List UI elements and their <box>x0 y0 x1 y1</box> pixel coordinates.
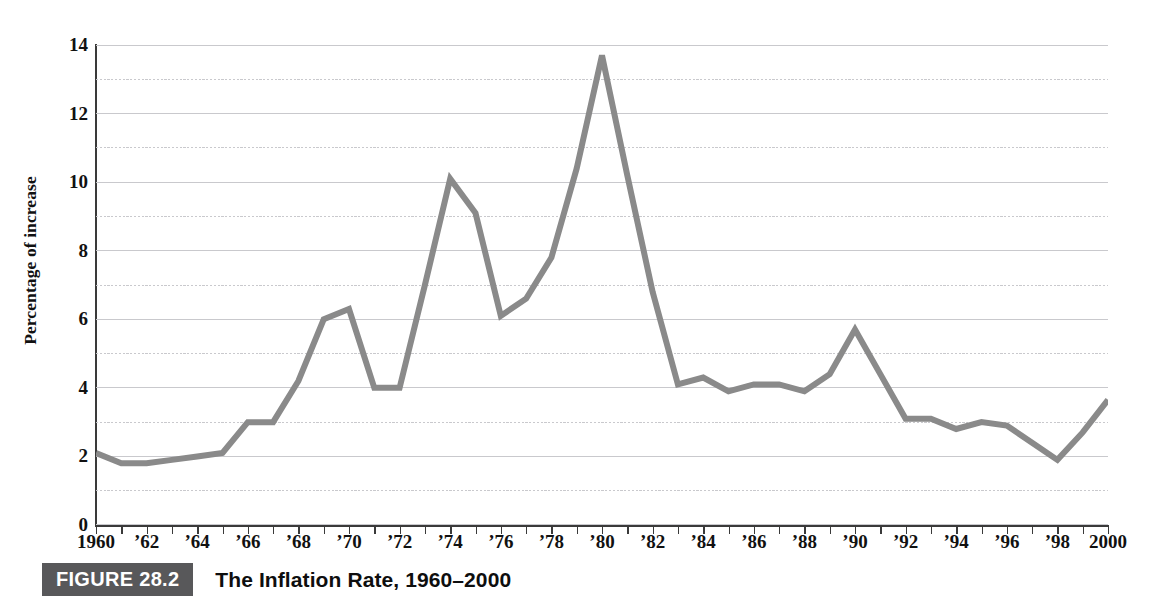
figure-title: The Inflation Rate, 1960–2000 <box>215 563 511 596</box>
y-tick-label: 10 <box>48 171 88 193</box>
y-tick-label: 4 <box>48 377 88 399</box>
y-tick-label: 6 <box>48 308 88 330</box>
y-axis-title: Percentage of increase <box>20 51 41 471</box>
figure-page: Percentage of increase 02468101214 1960’… <box>0 0 1173 599</box>
inflation-rate-line <box>96 45 1108 525</box>
y-tick-label: 2 <box>48 445 88 467</box>
figure-caption: FIGURE 28.2 The Inflation Rate, 1960–200… <box>0 563 1173 599</box>
plot-area <box>96 45 1108 525</box>
x-tick-label: 2000 <box>1073 531 1143 553</box>
y-tick-label: 14 <box>48 34 88 56</box>
y-tick-label: 8 <box>48 240 88 262</box>
y-tick-label: 12 <box>48 103 88 125</box>
figure-number-badge: FIGURE 28.2 <box>42 563 193 596</box>
